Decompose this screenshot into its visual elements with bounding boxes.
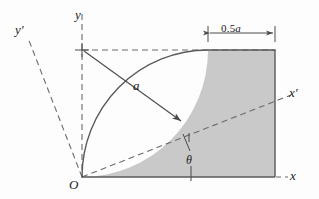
figure-canvas: y y′ x′ x O a θ 0.5a	[0, 0, 319, 199]
x-axis-label: x	[290, 169, 296, 182]
y-prime-axis-line	[28, 38, 82, 177]
origin-label: O	[69, 178, 78, 191]
radius-label: a	[133, 79, 140, 92]
dimension-value: 0.5	[221, 22, 235, 34]
angle-label: θ	[186, 154, 192, 166]
y-axis-label: y	[75, 8, 81, 21]
shaded-region	[82, 50, 275, 177]
dimension-label: 0.5a	[221, 23, 241, 34]
x-prime-axis-label: x′	[289, 86, 298, 99]
dimension-unit: a	[235, 22, 241, 34]
diagram-svg	[0, 0, 319, 199]
y-prime-axis-label: y′	[15, 23, 24, 36]
